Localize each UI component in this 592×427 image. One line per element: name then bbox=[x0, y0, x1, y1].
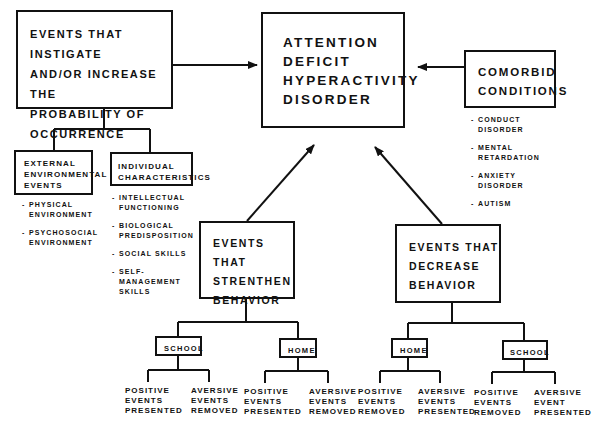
external-environmental-events-box: EXTERNAL ENVIRONMENTAL EVENTS bbox=[14, 150, 93, 195]
list-item: -INTELLECTUALFUNCTIONING bbox=[112, 193, 194, 213]
strengthen-school-positive: POSITIVEEVENTSPRESENTED bbox=[125, 386, 183, 416]
comorbid-line-1: COMORBID bbox=[478, 63, 554, 82]
strengthen-line-3: BEHAVIOR bbox=[213, 291, 293, 310]
decrease-line-1: EVENTS THAT bbox=[409, 238, 499, 257]
decrease-home-positive: POSITIVEEVENTSREMOVED bbox=[358, 387, 405, 417]
strengthen-home-aversive: AVERSIVEEVENTSREMOVED bbox=[309, 387, 357, 417]
setting-label: SCHOOL bbox=[164, 344, 200, 354]
adhd-line-1: ATTENTION bbox=[283, 33, 403, 52]
arrow-strengthen-to-adhd bbox=[247, 145, 314, 221]
list-item: -SELF-MANAGEMENTSKILLS bbox=[112, 267, 194, 297]
list-item: -ANXIETYDISORDER bbox=[471, 171, 540, 191]
setting-label: HOME bbox=[400, 346, 426, 356]
list-item: -BIOLOGICALPREDISPOSITION bbox=[112, 221, 194, 241]
individual-line-2: CHARACTERISTICS bbox=[118, 172, 191, 183]
decrease-line-3: BEHAVIOR bbox=[409, 276, 499, 295]
list-item: -PHYSICALENVIRONMENT bbox=[22, 200, 98, 220]
instigating-line-4: OCCURRENCE bbox=[30, 124, 171, 144]
instigating-events-box: EVENTS THAT INSTIGATE AND/OR INCREASE TH… bbox=[16, 10, 173, 109]
decrease-school-positive: POSITIVEEVENTSREMOVED bbox=[474, 388, 521, 418]
decrease-behavior-box: EVENTS THAT DECREASE BEHAVIOR bbox=[395, 224, 501, 303]
strengthen-home-box: HOME bbox=[279, 338, 317, 358]
individual-characteristics-list: -INTELLECTUALFUNCTIONING -BIOLOGICALPRED… bbox=[112, 193, 194, 305]
instigating-line-1: EVENTS THAT INSTIGATE bbox=[30, 24, 171, 64]
decrease-line-2: DECREASE bbox=[409, 257, 499, 276]
arrow-decrease-to-adhd bbox=[375, 147, 442, 224]
individual-line-1: INDIVIDUAL bbox=[118, 161, 191, 172]
decrease-school-box: SCHOOL bbox=[502, 340, 548, 360]
instigating-line-3: PROBABILITY OF bbox=[30, 104, 171, 124]
list-item: -CONDUCTDISORDER bbox=[471, 115, 540, 135]
adhd-line-4: DISORDER bbox=[283, 90, 403, 109]
decrease-home-aversive: AVERSIVEEVENTSPRESENTED bbox=[418, 387, 476, 417]
list-item: -MENTALRETARDATION bbox=[471, 143, 540, 163]
instigating-line-2: AND/OR INCREASE THE bbox=[30, 64, 171, 104]
strengthen-line-1: EVENTS THAT bbox=[213, 234, 293, 272]
strengthen-home-positive: POSITIVEEVENTSPRESENTED bbox=[244, 387, 302, 417]
setting-label: SCHOOL bbox=[510, 348, 546, 358]
strengthen-school-aversive: AVERSIVEEVENTSREMOVED bbox=[191, 386, 239, 416]
external-events-list: -PHYSICALENVIRONMENT -PSYCHOSOCIALENVIRO… bbox=[22, 200, 98, 256]
strengthen-school-box: SCHOOL bbox=[155, 336, 202, 356]
strengthen-line-2: STRENTHEN bbox=[213, 272, 293, 291]
setting-label: HOME bbox=[288, 346, 315, 356]
strengthen-behavior-box: EVENTS THAT STRENTHEN BEHAVIOR bbox=[199, 221, 295, 299]
decrease-school-aversive: AVERSIVEEVENTPRESENTED bbox=[534, 388, 592, 418]
external-line-2: ENVIRONMENTAL bbox=[24, 169, 91, 180]
external-line-1: EXTERNAL bbox=[24, 158, 91, 169]
individual-characteristics-box: INDIVIDUAL CHARACTERISTICS bbox=[110, 152, 193, 186]
comorbid-line-2: CONDITIONS bbox=[478, 82, 554, 101]
comorbid-conditions-list: -CONDUCTDISORDER -MENTALRETARDATION -ANX… bbox=[471, 115, 540, 217]
decrease-home-box: HOME bbox=[391, 338, 428, 358]
list-item: -PSYCHOSOCIALENVIRONMENT bbox=[22, 228, 98, 248]
comorbid-conditions-box: COMORBID CONDITIONS bbox=[464, 50, 556, 108]
list-item: -SOCIAL SKILLS bbox=[112, 249, 194, 259]
adhd-line-2: DEFICIT bbox=[283, 52, 403, 71]
adhd-box: ATTENTION DEFICIT HYPERACTIVITY DISORDER bbox=[261, 12, 405, 128]
list-item: -AUTISM bbox=[471, 199, 540, 209]
external-line-3: EVENTS bbox=[24, 180, 91, 191]
adhd-line-3: HYPERACTIVITY bbox=[283, 71, 403, 90]
